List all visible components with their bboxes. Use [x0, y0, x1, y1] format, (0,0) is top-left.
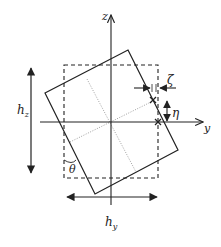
h-y-label: hy — [105, 215, 118, 231]
y-axis-label: y — [203, 122, 211, 135]
theta-label: θ — [69, 163, 76, 176]
eta-label: η — [172, 106, 180, 120]
zeta-label: ζ — [167, 73, 175, 87]
h-z-label: hz — [17, 103, 30, 119]
z-axis-label: z — [101, 10, 108, 23]
diagram-canvas: z y hz hy θ ζ η — [0, 0, 221, 247]
point-marker-shear-center — [150, 97, 156, 103]
